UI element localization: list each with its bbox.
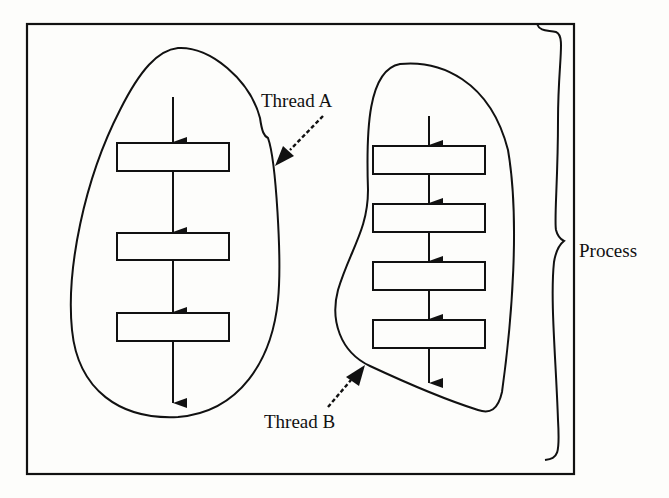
thread-b-step-4 xyxy=(373,320,485,348)
thread-a-step-2 xyxy=(117,233,229,260)
thread-b-label: Thread B xyxy=(264,412,335,431)
thread-b-outline xyxy=(335,64,514,412)
thread-a-step-1 xyxy=(117,143,229,171)
thread-a-pointer-arrow xyxy=(275,116,323,166)
thread-b-step-1 xyxy=(373,146,485,174)
thread-b-step-3 xyxy=(373,262,485,290)
thread-b-step-2 xyxy=(373,204,485,232)
thread-b-flow xyxy=(373,116,485,383)
thread-b-pointer-arrow xyxy=(328,365,365,407)
process-label: Process xyxy=(579,241,637,260)
thread-a-flow xyxy=(117,97,229,403)
thread-a-label: Thread A xyxy=(261,91,332,110)
thread-a-step-3 xyxy=(117,313,229,341)
process-brace xyxy=(537,24,564,460)
